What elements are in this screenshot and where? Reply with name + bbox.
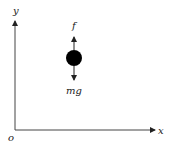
- x-axis-label: x: [158, 125, 164, 136]
- force-f-label: f: [71, 20, 78, 31]
- force-mg-label: mg: [66, 85, 82, 96]
- free-body-diagram: y x o f mg: [0, 0, 169, 143]
- origin-label: o: [8, 132, 14, 143]
- mass-ball: [66, 50, 82, 66]
- y-axis-label: y: [12, 5, 19, 16]
